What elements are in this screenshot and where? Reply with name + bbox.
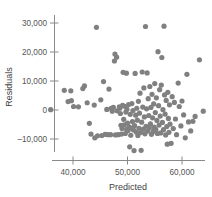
x-tick-label: 60,000 — [169, 168, 194, 177]
y-tick-label: –10,000 — [17, 135, 47, 144]
data-point — [94, 25, 99, 30]
data-point — [92, 102, 97, 107]
data-point — [158, 113, 163, 118]
data-point — [201, 109, 206, 114]
data-point — [140, 69, 145, 74]
data-point — [139, 120, 144, 125]
data-point — [76, 104, 81, 109]
data-point — [137, 111, 142, 116]
data-point — [164, 98, 169, 103]
data-point — [167, 122, 172, 127]
data-point — [131, 148, 136, 153]
data-points-layer — [48, 24, 206, 154]
data-point — [82, 83, 87, 88]
data-point — [150, 115, 155, 120]
data-point — [156, 103, 161, 108]
data-point — [165, 90, 170, 95]
data-point — [179, 98, 184, 103]
data-point — [192, 114, 197, 119]
scatter-plot-figure: –10,000010,00020,00030,000 40,00050,0006… — [0, 0, 212, 197]
data-point — [124, 107, 129, 112]
data-point — [183, 135, 188, 140]
data-point — [161, 24, 166, 29]
x-tick-label: 40,000 — [60, 168, 85, 177]
y-tick-label: 30,000 — [22, 19, 47, 28]
data-point — [151, 101, 156, 106]
data-point — [132, 123, 137, 128]
data-point — [108, 132, 113, 137]
data-point — [154, 118, 159, 123]
data-point — [48, 107, 53, 112]
data-point — [85, 100, 90, 105]
data-point — [114, 55, 119, 60]
data-point — [141, 85, 146, 90]
data-point — [106, 87, 111, 92]
data-point — [87, 121, 92, 126]
y-tick-label: 20,000 — [22, 48, 47, 57]
data-point — [184, 72, 189, 77]
data-point — [172, 100, 177, 105]
data-point — [154, 95, 159, 100]
data-point — [163, 111, 168, 116]
y-tick-label: 0 — [42, 106, 47, 115]
data-point — [174, 132, 179, 137]
data-point — [178, 123, 183, 128]
data-point — [136, 99, 141, 104]
data-point — [166, 130, 171, 135]
data-point — [160, 120, 165, 125]
data-point — [139, 148, 144, 153]
data-point — [134, 106, 139, 111]
data-point — [145, 70, 150, 75]
data-point — [152, 81, 157, 86]
data-point — [190, 119, 195, 124]
data-point — [143, 24, 148, 29]
data-point — [176, 80, 181, 85]
data-point — [133, 71, 138, 76]
data-point — [171, 126, 176, 131]
data-point — [62, 88, 67, 93]
data-point — [159, 82, 164, 87]
y-tick-label: 10,000 — [22, 77, 47, 86]
residuals-vs-predicted-chart: –10,000010,00020,00030,000 40,00050,0006… — [0, 0, 212, 197]
data-point — [153, 110, 158, 115]
data-point — [127, 144, 132, 149]
data-point — [128, 133, 133, 138]
data-point — [98, 97, 103, 102]
data-point — [121, 117, 126, 122]
data-point — [181, 112, 186, 117]
data-point — [104, 107, 109, 112]
data-point — [68, 88, 73, 93]
data-point — [137, 91, 142, 96]
x-axis-title: Predicted — [109, 182, 147, 192]
data-point — [157, 87, 162, 92]
data-point — [124, 71, 129, 76]
y-axis-title: Residuals — [4, 67, 14, 107]
y-axis-ticks: –10,000010,00020,00030,000 — [17, 19, 58, 144]
data-point — [167, 102, 172, 107]
data-point — [146, 96, 151, 101]
data-point — [197, 57, 202, 62]
data-point — [118, 111, 123, 116]
data-point — [166, 116, 171, 121]
data-point — [170, 94, 175, 99]
x-axis-ticks: 40,00050,00060,000 — [60, 157, 194, 178]
data-point — [71, 104, 76, 109]
data-point — [149, 92, 154, 97]
data-point — [88, 131, 93, 136]
data-point — [159, 55, 164, 60]
data-point — [147, 84, 152, 89]
data-point — [101, 79, 106, 84]
data-point — [169, 141, 174, 146]
data-point — [155, 49, 160, 54]
data-point — [177, 104, 182, 109]
data-point — [173, 116, 178, 121]
data-point — [129, 101, 134, 106]
x-tick-label: 50,000 — [115, 168, 140, 177]
data-point — [186, 119, 191, 124]
data-point — [188, 128, 193, 133]
data-point — [69, 98, 74, 103]
